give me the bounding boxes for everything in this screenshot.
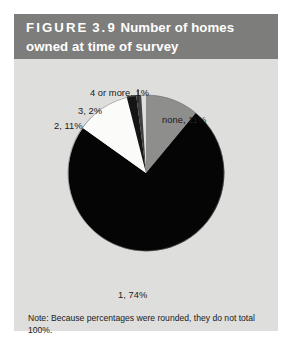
slice-label-3: 3, 2%: [78, 106, 102, 116]
figure-number: 3.9: [92, 20, 117, 35]
slice-label-4-or-more: 4 or more, 1%: [90, 88, 149, 98]
pie-chart: 4 or more, 1% 3, 2% 2, 11% none, 11% 1, …: [14, 59, 278, 309]
slice-label-2: 2, 11%: [54, 121, 83, 131]
figure-title-banner: FIGURE 3.9 Number of homes owned at time…: [14, 14, 278, 59]
figure-title-rest: Number of homes: [121, 20, 235, 35]
slice-label-none: none, 11%: [162, 115, 206, 125]
slice-label-1: 1, 74%: [118, 290, 147, 300]
figure-title-line-2: owned at time of survey: [26, 37, 268, 56]
figure-title-line-1: FIGURE 3.9 Number of homes: [26, 18, 268, 37]
figure-title-prefix: FIGURE: [26, 20, 88, 35]
figure-note: Note: Because percentages were rounded, …: [28, 313, 264, 336]
figure-panel: FIGURE 3.9 Number of homes owned at time…: [14, 14, 278, 331]
